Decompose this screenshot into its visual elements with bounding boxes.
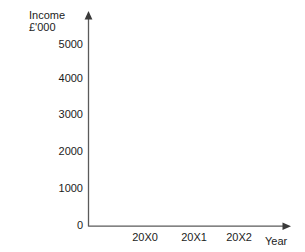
y-tick-label-5000: 5000	[23, 39, 83, 50]
x-tick-label-20x1: 20X1	[171, 231, 217, 243]
chart-figure: Income £'000 5000 4000 3000 2000 1000 0 …	[0, 0, 305, 252]
y-tick-label-1000: 1000	[23, 183, 83, 194]
x-axis-title: Year	[265, 235, 305, 247]
y-tick-label-0: 0	[23, 220, 83, 231]
y-tick-label-4000: 4000	[23, 73, 83, 84]
y-tick-label-2000: 2000	[23, 146, 83, 157]
plot-area	[89, 14, 289, 226]
y-tick-label-3000: 3000	[23, 109, 83, 120]
x-tick-label-20x0: 20X0	[122, 231, 168, 243]
x-tick-label-20x2: 20X2	[216, 231, 262, 243]
